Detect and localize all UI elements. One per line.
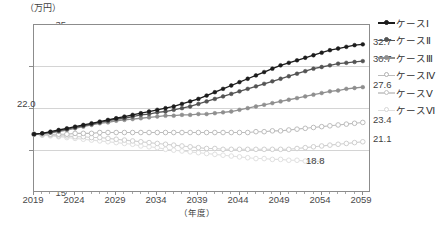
x-axis-unit-label: （年度） — [167, 206, 227, 218]
series-canvas — [34, 25, 371, 193]
legend-item-case1[interactable]: ケースⅠ — [378, 14, 442, 32]
legend-marker-open-icon — [378, 70, 395, 80]
x-tick-label: 2024 — [54, 194, 94, 205]
x-tick-label: 2029 — [95, 194, 135, 205]
series-1 — [32, 42, 365, 136]
value-callout-start: 22.0 — [17, 98, 36, 109]
legend-label: ケースⅢ — [396, 51, 433, 65]
x-tick-label: 2054 — [300, 194, 340, 205]
legend-marker-filled-icon — [378, 18, 395, 28]
x-tick-label: 2039 — [177, 194, 217, 205]
line-chart: （万円） 35 30 25 20 15 2019 2024 2029 2034 … — [0, 0, 442, 226]
legend: ケースⅠ ケースⅡ ケースⅢ ケースⅣ ケースⅤ ケースⅥ — [378, 14, 442, 119]
legend-marker-filled-icon — [378, 53, 395, 63]
legend-label: ケースⅡ — [396, 33, 431, 47]
value-callout-case6: 18.8 — [306, 155, 325, 166]
legend-item-case6[interactable]: ケースⅥ — [378, 102, 442, 120]
legend-label: ケースⅠ — [396, 16, 429, 30]
x-tick-label: 2049 — [259, 194, 299, 205]
x-tick-label: 2044 — [218, 194, 258, 205]
y-axis-unit-label: （万円） — [25, 1, 61, 14]
legend-item-case3[interactable]: ケースⅢ — [378, 49, 442, 67]
legend-marker-filled-icon — [378, 35, 395, 45]
series-4 — [32, 120, 365, 136]
value-callout-case5: 21.1 — [373, 133, 392, 144]
legend-marker-open-icon — [378, 105, 395, 115]
plot-area — [33, 24, 370, 192]
legend-label: ケースⅥ — [396, 103, 435, 117]
legend-item-case2[interactable]: ケースⅡ — [378, 32, 442, 50]
legend-label: ケースⅣ — [396, 68, 435, 82]
legend-item-case4[interactable]: ケースⅣ — [378, 67, 442, 85]
legend-marker-open-icon — [378, 88, 395, 98]
x-tick-label: 2019 — [13, 194, 53, 205]
x-tick-label: 2059 — [341, 194, 381, 205]
x-tick-label: 2034 — [136, 194, 176, 205]
legend-item-case5[interactable]: ケースⅤ — [378, 84, 442, 102]
legend-label: ケースⅤ — [396, 86, 433, 100]
